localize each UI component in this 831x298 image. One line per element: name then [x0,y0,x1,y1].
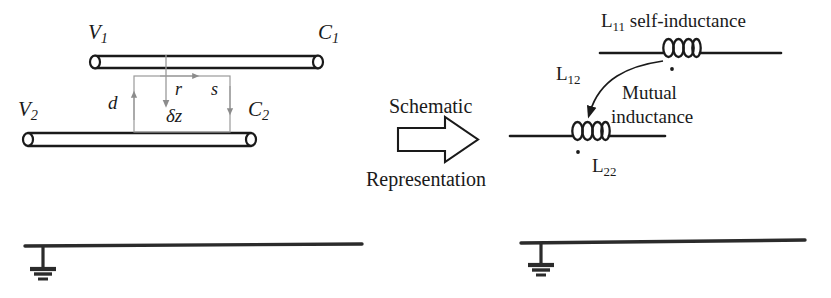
label-v1: V1 [88,22,108,45]
ground-rail-right [521,240,805,275]
label-mutual-line2: inductance [611,107,693,126]
polarity-dot-l22 [576,150,580,154]
label-delta-z: δz [166,106,182,125]
inductor-coil-l22 [572,122,609,140]
label-mutual-line1: Mutual [622,83,677,102]
label-l22: L22 [592,156,617,179]
figure-canvas: V1 C1 V2 C2 d r s δz Schematic Represent… [0,0,831,298]
label-separation-d: d [108,93,118,112]
label-flux-r: r [175,80,182,98]
inductor-branch-top [600,39,781,71]
earth-ground-icon-left [30,269,56,279]
label-side-s: s [211,80,218,98]
transition-block-arrow [398,117,478,162]
inductor-coil-l11 [663,39,700,57]
label-v2: V2 [18,99,38,122]
conductor-top [90,56,323,69]
transition-label-line1: Schematic [389,96,472,116]
label-c1: C1 [318,22,339,45]
polarity-dot-l11 [670,67,674,71]
label-c2: C2 [248,99,269,122]
transition-label-line2: Representation [366,169,486,189]
diagram-artwork [0,0,831,298]
ground-rail-left [25,244,362,279]
earth-ground-icon-right [528,265,554,275]
conductor-bottom [23,133,256,146]
label-l11-self-inductance: L11 self-inductance [601,11,746,34]
label-l12: L12 [556,64,581,87]
